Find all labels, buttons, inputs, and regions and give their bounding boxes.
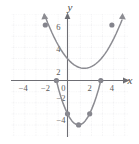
data-point xyxy=(43,22,48,27)
x-tick-label: 0 xyxy=(61,83,65,93)
data-point xyxy=(109,22,114,27)
y-tick-label: −4 xyxy=(56,115,66,125)
graph-figure: x y −4 −2 0 2 4 6 4 2 −2 −4 xyxy=(0,0,139,144)
x-tick-label: −2 xyxy=(41,83,50,93)
y-tick-label: 6 xyxy=(56,22,60,32)
y-axis-label: y xyxy=(67,1,73,13)
x-axis-label: x xyxy=(127,74,133,86)
coordinate-plane-svg: x y −4 −2 0 2 4 6 4 2 −2 −4 xyxy=(0,0,139,144)
x-tick-label: 2 xyxy=(88,83,92,93)
x-tick-label: 4 xyxy=(110,83,115,93)
x-tick-label: −4 xyxy=(19,83,29,93)
y-tick-label: 2 xyxy=(56,67,60,77)
